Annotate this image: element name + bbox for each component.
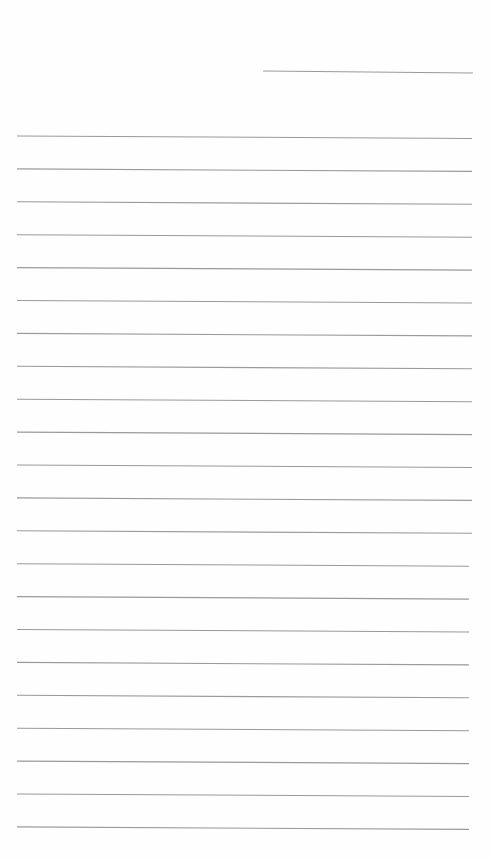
ruled-line bbox=[17, 399, 472, 402]
ruled-lines-canvas bbox=[0, 0, 491, 859]
ruled-line bbox=[17, 531, 472, 534]
ruled-line bbox=[17, 728, 469, 731]
ruled-line bbox=[17, 235, 472, 238]
ruled-line bbox=[17, 333, 472, 336]
ruled-line bbox=[17, 301, 472, 304]
ruled-line bbox=[17, 794, 469, 797]
ruled-line bbox=[17, 202, 472, 205]
header-name-date-line bbox=[263, 71, 473, 73]
ruled-line bbox=[17, 498, 472, 501]
ruled-line bbox=[17, 761, 469, 764]
ruled-line bbox=[17, 564, 469, 567]
lined-paper-page bbox=[0, 0, 491, 859]
ruled-line bbox=[17, 827, 469, 830]
ruled-line bbox=[17, 662, 469, 665]
ruled-line bbox=[17, 169, 472, 172]
ruled-line bbox=[17, 136, 472, 139]
ruled-lines-group bbox=[17, 136, 472, 829]
ruled-line bbox=[17, 432, 472, 435]
ruled-line bbox=[17, 630, 469, 633]
ruled-line bbox=[17, 695, 469, 698]
ruled-line bbox=[17, 268, 472, 271]
ruled-line bbox=[17, 465, 472, 468]
ruled-line bbox=[17, 597, 469, 600]
ruled-line bbox=[17, 366, 472, 369]
